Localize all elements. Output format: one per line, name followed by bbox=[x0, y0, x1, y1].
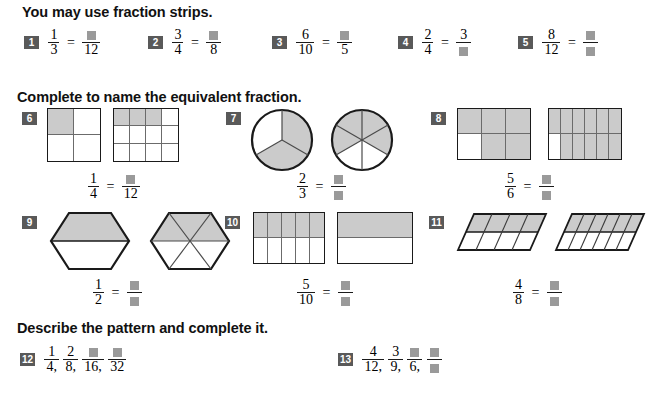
pattern-term: 32 bbox=[108, 345, 126, 375]
grid-cell bbox=[506, 109, 530, 134]
fraction-right bbox=[583, 28, 598, 58]
answer-blank-denominator[interactable] bbox=[456, 42, 471, 57]
answer-blank-denominator[interactable] bbox=[427, 359, 442, 374]
grid-cell bbox=[254, 238, 268, 263]
answer-box[interactable] bbox=[542, 175, 551, 184]
comma: , bbox=[417, 359, 421, 374]
answer-blank-numerator[interactable] bbox=[427, 345, 442, 359]
answer-blank-numerator[interactable] bbox=[547, 278, 562, 292]
figure-hexagon-sixths-9-right bbox=[148, 210, 232, 272]
equals-sign: = bbox=[438, 35, 452, 51]
answer-blank-numerator[interactable] bbox=[127, 278, 142, 292]
problem-number-badge: 12 bbox=[20, 353, 35, 366]
grid-cell bbox=[282, 213, 296, 238]
answer-blank-numerator[interactable] bbox=[206, 28, 221, 42]
answer-blank-numerator[interactable] bbox=[82, 28, 100, 42]
figure-parallelogram-eighths-11-left bbox=[456, 212, 548, 254]
answer-box[interactable] bbox=[410, 348, 419, 357]
answer-blank-numerator[interactable] bbox=[338, 278, 353, 292]
problem-1: 1 1 3 = 12 bbox=[24, 28, 100, 58]
equals-sign: = bbox=[312, 179, 326, 195]
grid-cell bbox=[506, 134, 530, 159]
grid-cell bbox=[146, 144, 162, 161]
answer-box[interactable] bbox=[341, 281, 350, 290]
answer-box[interactable] bbox=[87, 31, 96, 40]
fraction-left: 4 8 bbox=[513, 278, 524, 308]
answer-blank-denominator[interactable] bbox=[547, 292, 562, 307]
answer-blank-numerator[interactable] bbox=[108, 345, 126, 359]
grid-cell bbox=[585, 109, 597, 134]
problem-number-badge: 2 bbox=[148, 36, 163, 49]
grid-cell bbox=[114, 109, 130, 126]
grid-cell bbox=[338, 213, 412, 238]
equals-sign: = bbox=[565, 35, 579, 51]
grid-cell bbox=[310, 238, 324, 263]
answer-blank-denominator[interactable] bbox=[583, 42, 598, 57]
pattern-term: 16, bbox=[82, 345, 104, 375]
answer-box[interactable] bbox=[341, 297, 350, 306]
answer-blank-numerator[interactable] bbox=[82, 345, 104, 359]
figure-circle-thirds-7-left bbox=[250, 108, 314, 172]
figure-circle-sixths-7-right bbox=[330, 108, 394, 172]
answer-blank-denominator[interactable] bbox=[539, 186, 554, 201]
grid-cell bbox=[48, 135, 74, 161]
fraction-right: 3 bbox=[456, 28, 471, 58]
figure-rect-sixths-8-left bbox=[457, 108, 531, 160]
answer-box[interactable] bbox=[334, 175, 343, 184]
problem-11-equation: 4 8 = bbox=[513, 278, 562, 308]
answer-box[interactable] bbox=[586, 31, 595, 40]
answer-blank-denominator[interactable] bbox=[127, 292, 142, 307]
problem-number-badge-9: 9 bbox=[22, 216, 37, 229]
problem-number-badge-8: 8 bbox=[431, 112, 446, 125]
answer-blank-denominator[interactable] bbox=[338, 292, 353, 307]
answer-blank-numerator[interactable] bbox=[122, 172, 140, 186]
answer-blank-numerator[interactable] bbox=[331, 172, 346, 186]
section-heading-equivalent-fraction: Complete to name the equivalent fraction… bbox=[17, 89, 301, 105]
problem-number-badge: 4 bbox=[398, 36, 413, 49]
answer-box[interactable] bbox=[209, 31, 218, 40]
answer-box[interactable] bbox=[430, 348, 439, 357]
answer-box[interactable] bbox=[130, 297, 139, 306]
fraction-left: 1 2 bbox=[93, 278, 104, 308]
answer-box[interactable] bbox=[89, 348, 98, 357]
answer-blank-numerator[interactable] bbox=[337, 28, 352, 42]
answer-box[interactable] bbox=[113, 348, 122, 357]
answer-box[interactable] bbox=[550, 297, 559, 306]
grid-cell bbox=[282, 238, 296, 263]
answer-box[interactable] bbox=[130, 281, 139, 290]
fraction-left: 6 10 bbox=[296, 28, 314, 58]
comma: , bbox=[397, 359, 401, 374]
problem-10-equation: 5 10 = bbox=[297, 278, 353, 308]
grid-cell bbox=[268, 238, 282, 263]
pattern-term bbox=[427, 345, 442, 375]
problem-12: 12 1 4, 2 8, 16, 32 bbox=[20, 345, 126, 375]
answer-blank-numerator[interactable] bbox=[583, 28, 598, 42]
figure-parallelogram-sixteenths-11-right bbox=[554, 212, 646, 254]
answer-blank-numerator[interactable] bbox=[539, 172, 554, 186]
grid-cell bbox=[609, 134, 621, 159]
answer-box[interactable] bbox=[459, 47, 468, 56]
comma: , bbox=[72, 359, 76, 374]
problem-5: 5 8 12 = bbox=[518, 28, 598, 58]
grid-cell bbox=[146, 126, 162, 143]
answer-box[interactable] bbox=[550, 281, 559, 290]
answer-box[interactable] bbox=[430, 364, 439, 373]
pattern-term: 2 8, bbox=[63, 345, 78, 375]
grid-cell bbox=[561, 109, 573, 134]
pattern-term: 3 9, bbox=[388, 345, 403, 375]
answer-box[interactable] bbox=[334, 191, 343, 200]
grid-cell bbox=[458, 134, 482, 159]
pattern-term: 1 4, bbox=[44, 345, 59, 375]
grid-cell bbox=[268, 213, 282, 238]
grid-cell bbox=[114, 144, 130, 161]
grid-cell bbox=[254, 213, 268, 238]
answer-box[interactable] bbox=[340, 31, 349, 40]
comma: , bbox=[378, 359, 382, 374]
grid-cell bbox=[338, 238, 412, 263]
grid-cell bbox=[162, 144, 178, 161]
answer-box[interactable] bbox=[126, 175, 135, 184]
answer-blank-denominator[interactable] bbox=[331, 186, 346, 201]
answer-box[interactable] bbox=[542, 191, 551, 200]
answer-box[interactable] bbox=[586, 47, 595, 56]
answer-blank-numerator[interactable] bbox=[407, 345, 422, 359]
